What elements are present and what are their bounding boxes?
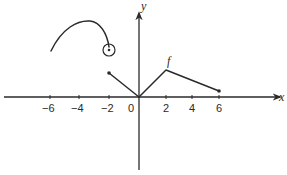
arc-piece xyxy=(51,21,109,51)
x-axis-label: x xyxy=(278,90,285,104)
closed-endpoint-left xyxy=(107,71,111,75)
open-endpoint-dot xyxy=(108,49,111,52)
tick-label-neg4: −4 xyxy=(71,102,84,114)
function-graph: x y −6 −4 −2 0 2 4 6 f xyxy=(0,0,287,175)
linear-piece-right xyxy=(139,70,219,97)
linear-piece-left xyxy=(109,73,139,97)
y-axis-label: y xyxy=(140,0,147,13)
tick-label-neg6: −6 xyxy=(42,102,55,114)
closed-endpoint-right xyxy=(217,89,221,93)
function-label: f xyxy=(167,54,172,68)
x-tick-labels: −6 −4 −2 0 2 4 6 xyxy=(42,102,222,114)
tick-label-4: 4 xyxy=(189,102,195,114)
tick-label-neg2: −2 xyxy=(101,102,114,114)
tick-label-6: 6 xyxy=(216,102,222,114)
tick-label-2: 2 xyxy=(163,102,169,114)
tick-label-0: 0 xyxy=(128,102,134,114)
